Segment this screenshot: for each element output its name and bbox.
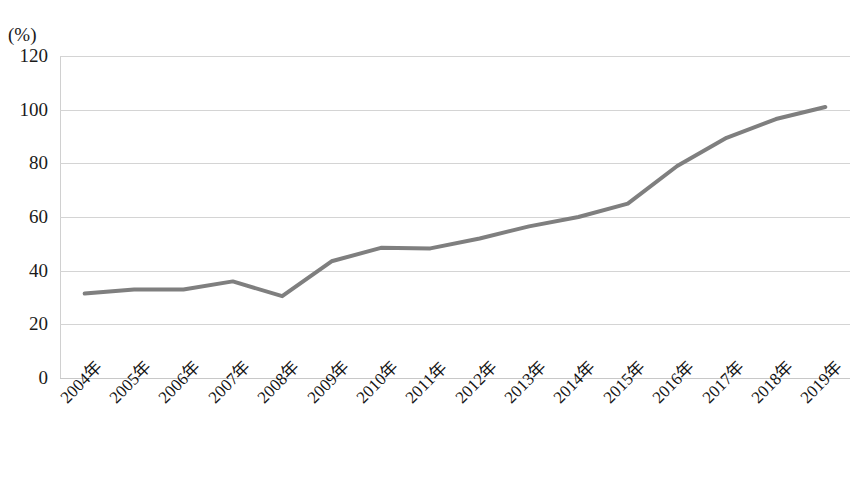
y-tick-label-20: 20 bbox=[0, 313, 48, 335]
series-line-chart bbox=[60, 56, 850, 378]
y-tick-label-0: 0 bbox=[0, 367, 48, 389]
line-chart: (%) 020406080100120 2004年2005年2006年2007年… bbox=[0, 0, 866, 482]
y-tick-label-60: 60 bbox=[0, 206, 48, 228]
y-axis-unit-label: (%) bbox=[8, 24, 36, 46]
y-tick-label-120: 120 bbox=[0, 45, 48, 67]
y-tick-label-40: 40 bbox=[0, 260, 48, 282]
y-tick-label-100: 100 bbox=[0, 99, 48, 121]
plot-area bbox=[60, 56, 850, 378]
y-tick-label-80: 80 bbox=[0, 152, 48, 174]
series-polyline bbox=[85, 107, 826, 296]
